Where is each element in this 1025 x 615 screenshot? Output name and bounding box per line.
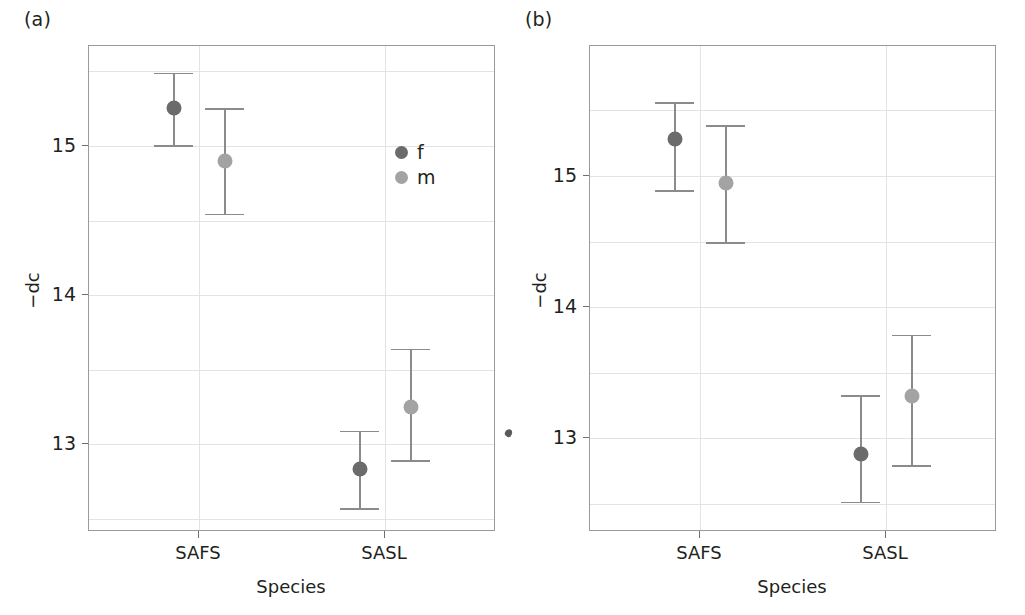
panel-b: (b) −dc xyxy=(513,0,1025,615)
y-tick-mark xyxy=(82,294,88,295)
gridline-horizontal xyxy=(89,370,494,371)
errorbar-cap-lower-sasl-f xyxy=(340,508,379,510)
gridline-vertical xyxy=(886,46,887,530)
errorbar-cap-lower-safs-f xyxy=(655,190,694,192)
errorbar-cap-upper-safs-m xyxy=(205,108,244,110)
y-tick-label-13: 13 xyxy=(545,426,577,448)
figure-container: (a) −dc xyxy=(0,0,1025,615)
legend: f m xyxy=(395,140,436,190)
data-point-safs-f[interactable] xyxy=(167,101,182,116)
errorbar-cap-upper-safs-f xyxy=(655,102,694,104)
gridline-vertical xyxy=(199,46,200,530)
legend-marker-f-icon xyxy=(395,146,408,159)
panel-a-x-axis-title: Species xyxy=(256,576,325,597)
errorbar-cap-upper-sasl-f xyxy=(340,431,379,433)
data-point-safs-m[interactable] xyxy=(719,175,734,190)
legend-label-f: f xyxy=(417,143,424,162)
legend-item-m[interactable]: m xyxy=(395,165,436,190)
legend-label-m: m xyxy=(417,168,436,187)
errorbar-cap-upper-sasl-m xyxy=(892,335,931,337)
gridline-horizontal xyxy=(590,504,995,505)
data-point-sasl-m[interactable] xyxy=(404,399,419,414)
gridline-horizontal xyxy=(89,444,494,445)
errorbar-cap-upper-sasl-f xyxy=(841,395,880,397)
gridline-horizontal xyxy=(590,307,995,308)
x-tick-mark xyxy=(198,531,199,538)
gridline-horizontal xyxy=(89,295,494,296)
x-tick-label-safs: SAFS xyxy=(676,542,722,563)
data-point-sasl-f[interactable] xyxy=(854,446,869,461)
gridline-horizontal xyxy=(590,438,995,439)
data-point-safs-m[interactable] xyxy=(218,154,233,169)
panel-a-label: (a) xyxy=(24,8,51,30)
errorbar-cap-lower-safs-m xyxy=(205,214,244,216)
x-tick-label-sasl: SASL xyxy=(862,542,908,563)
panel-b-label: (b) xyxy=(525,8,553,30)
panel-a-plot-area: f m xyxy=(88,45,495,531)
gridline-horizontal xyxy=(590,242,995,243)
gridline-horizontal xyxy=(590,176,995,177)
y-tick-mark xyxy=(82,145,88,146)
gridline-horizontal xyxy=(89,519,494,520)
errorbar-cap-lower-safs-m xyxy=(706,242,745,244)
y-tick-label-13: 13 xyxy=(44,432,76,454)
legend-item-f[interactable]: f xyxy=(395,140,436,165)
errorbar-cap-upper-safs-m xyxy=(706,125,745,127)
errorbar-cap-lower-sasl-m xyxy=(892,465,931,467)
gridline-horizontal xyxy=(89,221,494,222)
panel-b-x-axis-title: Species xyxy=(757,576,826,597)
errorbar-line-safs-f xyxy=(674,102,676,192)
panel-b-plot-area xyxy=(589,45,996,531)
errorbar-cap-upper-safs-f xyxy=(154,73,193,75)
errorbar-cap-upper-sasl-m xyxy=(391,349,430,351)
y-tick-label-15: 15 xyxy=(44,134,76,156)
x-tick-label-safs: SAFS xyxy=(175,542,221,563)
errorbar-cap-lower-sasl-m xyxy=(391,460,430,462)
y-tick-label-14: 14 xyxy=(44,283,76,305)
data-point-safs-f[interactable] xyxy=(668,132,683,147)
y-tick-mark xyxy=(583,437,589,438)
y-tick-mark xyxy=(583,306,589,307)
data-point-sasl-f[interactable] xyxy=(353,462,368,477)
gridline-horizontal xyxy=(590,110,995,111)
panel-a: (a) −dc xyxy=(0,0,512,615)
panel-a-y-axis-title: −dc xyxy=(22,272,43,308)
x-tick-mark xyxy=(885,531,886,538)
gridline-vertical xyxy=(700,46,701,530)
errorbar-cap-lower-sasl-f xyxy=(841,502,880,504)
gridline-vertical xyxy=(385,46,386,530)
errorbar-cap-lower-safs-f xyxy=(154,145,193,147)
x-tick-mark xyxy=(699,531,700,538)
x-tick-mark xyxy=(384,531,385,538)
y-tick-mark xyxy=(583,175,589,176)
y-tick-mark xyxy=(82,443,88,444)
legend-marker-m-icon xyxy=(395,171,408,184)
y-tick-label-14: 14 xyxy=(545,295,577,317)
gridline-horizontal xyxy=(590,373,995,374)
gridline-horizontal xyxy=(89,71,494,72)
x-tick-label-sasl: SASL xyxy=(361,542,407,563)
y-tick-label-15: 15 xyxy=(545,164,577,186)
data-point-sasl-m[interactable] xyxy=(905,389,920,404)
